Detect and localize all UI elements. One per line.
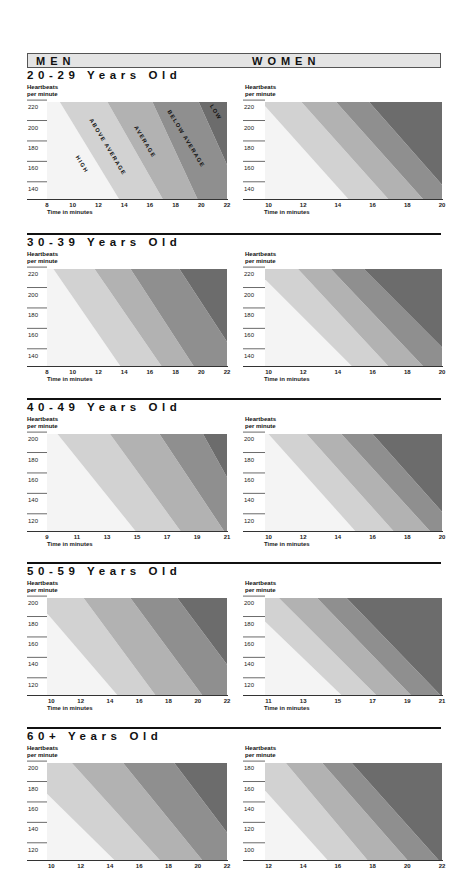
x-tick-label: 9 bbox=[45, 534, 49, 540]
y-tick-label: 180 bbox=[244, 765, 255, 771]
x-tick-label: 20 bbox=[194, 863, 201, 869]
x-tick-label: 11 bbox=[265, 698, 272, 704]
x-axis-label: Time in minutes bbox=[264, 705, 310, 711]
chart-men-1: 140160180200220810121416182022Time in mi… bbox=[27, 84, 227, 214]
x-tick-label: 17 bbox=[164, 534, 171, 540]
y-tick-label: 220 bbox=[244, 271, 255, 277]
x-tick-label: 18 bbox=[165, 863, 172, 869]
y-tick-label: 120 bbox=[28, 518, 39, 524]
y-tick-label: 140 bbox=[244, 661, 255, 667]
x-tick-label: 12 bbox=[77, 698, 84, 704]
chart-women-2: 140160180200220101214161820Time in minut… bbox=[242, 251, 442, 381]
y-tick-label: 180 bbox=[244, 457, 255, 463]
y-tick-label: 160 bbox=[244, 477, 255, 483]
x-tick-label: 21 bbox=[224, 534, 231, 540]
age-group-title: 60+ Years Old bbox=[27, 730, 162, 742]
x-tick-label: 20 bbox=[198, 202, 205, 208]
x-tick-label: 14 bbox=[300, 863, 307, 869]
y-tick-label: 140 bbox=[244, 806, 255, 812]
y-tick-label: 180 bbox=[244, 145, 255, 151]
x-axis-label: Time in minutes bbox=[264, 209, 310, 215]
x-tick-label: 10 bbox=[265, 534, 272, 540]
y-tick-label: 180 bbox=[28, 786, 39, 792]
y-tick-label: 160 bbox=[28, 806, 39, 812]
chart-women-4: 120140160180200111315171921Time in minut… bbox=[242, 580, 442, 710]
x-tick-label: 15 bbox=[134, 534, 141, 540]
x-tick-label: 15 bbox=[335, 698, 342, 704]
x-tick-label: 18 bbox=[172, 369, 179, 375]
y-tick-label: 160 bbox=[28, 641, 39, 647]
x-tick-label: 22 bbox=[439, 863, 446, 869]
gender-header-bar: MEN WOMEN bbox=[27, 53, 441, 68]
x-tick-label: 18 bbox=[404, 534, 411, 540]
x-tick-label: 19 bbox=[404, 698, 411, 704]
x-axis-label: Time in minutes bbox=[47, 209, 93, 215]
y-tick-label: 160 bbox=[28, 477, 39, 483]
y-tick-label: 160 bbox=[28, 332, 39, 338]
section-divider bbox=[27, 727, 441, 729]
age-group-title: 30-39 Years Old bbox=[27, 236, 181, 248]
y-tick-label: 140 bbox=[244, 497, 255, 503]
y-tick-label: 180 bbox=[28, 145, 39, 151]
y-tick-label: 160 bbox=[244, 641, 255, 647]
x-tick-label: 16 bbox=[136, 698, 143, 704]
y-tick-label: 140 bbox=[28, 186, 39, 192]
x-tick-label: 16 bbox=[369, 202, 376, 208]
x-tick-label: 16 bbox=[147, 369, 154, 375]
x-tick-label: 12 bbox=[265, 863, 272, 869]
y-tick-label: 140 bbox=[28, 497, 39, 503]
y-tick-label: 160 bbox=[28, 165, 39, 171]
y-tick-label: 120 bbox=[244, 682, 255, 688]
y-tick-label: 200 bbox=[28, 125, 39, 131]
y-tick-label: 180 bbox=[244, 621, 255, 627]
y-tick-label: 160 bbox=[244, 332, 255, 338]
y-tick-label: 200 bbox=[244, 125, 255, 131]
x-tick-label: 21 bbox=[439, 698, 446, 704]
x-tick-label: 10 bbox=[265, 202, 272, 208]
y-tick-label: 180 bbox=[28, 457, 39, 463]
age-group-title: 50-59 Years Old bbox=[27, 565, 181, 577]
y-tick-label: 140 bbox=[28, 826, 39, 832]
y-tick-label: 160 bbox=[244, 786, 255, 792]
chart-women-3: 120140160180200101214161820Time in minut… bbox=[242, 416, 442, 546]
y-tick-label: 200 bbox=[28, 292, 39, 298]
x-tick-label: 18 bbox=[404, 202, 411, 208]
y-tick-label: 180 bbox=[28, 312, 39, 318]
y-tick-label: 160 bbox=[244, 165, 255, 171]
x-tick-label: 10 bbox=[48, 698, 55, 704]
x-tick-label: 11 bbox=[74, 534, 81, 540]
y-tick-label: 120 bbox=[28, 847, 39, 853]
x-axis-label: Time in minutes bbox=[47, 376, 93, 382]
x-axis-label: Time in minutes bbox=[47, 705, 93, 711]
x-tick-label: 14 bbox=[107, 698, 114, 704]
chart-women-5: 100120140160180121416182022 bbox=[242, 745, 442, 874]
x-tick-label: 13 bbox=[300, 698, 307, 704]
y-tick-label: 220 bbox=[28, 271, 39, 277]
chart-men-5: 12014016018020010121416182022 bbox=[27, 745, 227, 874]
chart-men-4: 12014016018020010121416182022Time in min… bbox=[27, 580, 227, 710]
x-tick-label: 18 bbox=[369, 863, 376, 869]
x-tick-label: 19 bbox=[194, 534, 201, 540]
y-tick-label: 140 bbox=[28, 353, 39, 359]
x-tick-label: 10 bbox=[265, 369, 272, 375]
y-tick-label: 200 bbox=[244, 292, 255, 298]
x-tick-label: 10 bbox=[69, 369, 76, 375]
x-tick-label: 12 bbox=[300, 534, 307, 540]
x-tick-label: 22 bbox=[224, 698, 231, 704]
age-group-title: 40-49 Years Old bbox=[27, 401, 181, 413]
women-header: WOMEN bbox=[252, 54, 320, 68]
x-tick-label: 13 bbox=[104, 534, 111, 540]
x-axis-label: Time in minutes bbox=[47, 541, 93, 547]
y-tick-label: 180 bbox=[28, 621, 39, 627]
section-divider bbox=[27, 398, 441, 400]
age-group-title: 20-29 Years Old bbox=[27, 69, 181, 81]
y-tick-label: 220 bbox=[244, 104, 255, 110]
x-tick-label: 14 bbox=[335, 534, 342, 540]
x-tick-label: 20 bbox=[439, 534, 446, 540]
section-divider bbox=[27, 233, 441, 235]
x-tick-label: 16 bbox=[136, 863, 143, 869]
x-tick-label: 20 bbox=[439, 369, 446, 375]
chart-men-2: 140160180200220810121416182022Time in mi… bbox=[27, 251, 227, 381]
x-axis-label: Time in minutes bbox=[264, 376, 310, 382]
x-tick-label: 16 bbox=[369, 369, 376, 375]
